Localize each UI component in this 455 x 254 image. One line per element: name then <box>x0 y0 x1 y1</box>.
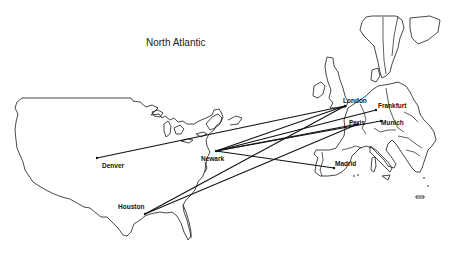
city-label-houston: Houston <box>118 204 144 211</box>
route-houston-paris <box>145 124 358 214</box>
city-marker-frankfurt <box>375 109 377 111</box>
city-marker-denver <box>96 157 98 159</box>
city-label-denver: Denver <box>102 163 124 170</box>
region-title: North Atlantic <box>146 37 205 48</box>
europe-outline <box>313 16 440 198</box>
city-label-newark: Newark <box>201 156 224 163</box>
map-canvas <box>0 0 455 254</box>
city-label-munich: Munich <box>381 120 404 127</box>
city-label-paris: Paris <box>349 120 365 127</box>
city-label-madrid: Madrid <box>335 161 356 168</box>
route-houston-london <box>145 106 345 214</box>
nova-scotia-outline <box>228 116 242 125</box>
city-marker-newark <box>215 150 217 152</box>
city-label-frankfurt: Frankfurt <box>378 103 407 110</box>
city-marker-houston <box>144 213 146 215</box>
city-marker-london <box>344 105 346 107</box>
city-label-london: London <box>343 98 367 105</box>
